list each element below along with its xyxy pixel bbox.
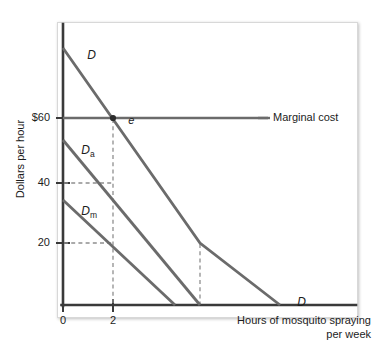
x-axis-title-line2: per week [196,328,371,342]
y-tick-label-60: $60 [18,111,50,123]
y-tick-label-20: 20 [18,236,50,248]
curve-label-demand-market-left-text: D [87,48,96,62]
equilibrium-point-label-text: e [128,114,134,126]
curve-label-demand-market-right: D [284,283,306,323]
curve-label-demand-max-text: D [81,204,90,218]
x-tick-label-2: 2 [103,314,123,326]
curve-label-demand-anna: Da [68,131,95,174]
curve-label-demand-market-left: D [74,36,96,76]
curve-label-demand-market-right-text: D [297,295,306,309]
figure-container: Dollars per hour $60 40 20 0 2 Hours of … [0,0,375,348]
curve-label-demand-max-subscript: m [90,211,97,221]
curve-label-demand-max: Dm [68,192,97,235]
y-tick-label-40: 40 [18,176,50,188]
curve-label-demand-anna-subscript: a [90,150,95,160]
x-tick-label-0: 0 [53,314,73,326]
chart-svg [0,0,375,348]
equilibrium-point-label: e [116,102,134,139]
curve-label-demand-anna-text: D [81,143,90,157]
legend-label-marginal-cost: Marginal cost [273,111,338,123]
demand-curve-market [63,48,280,305]
